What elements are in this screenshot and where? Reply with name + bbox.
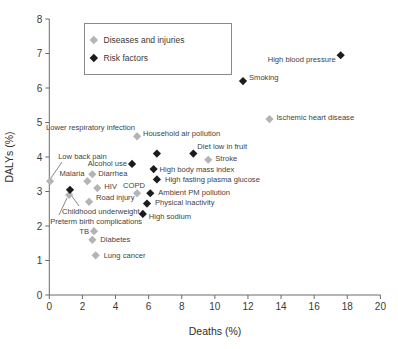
- data-point-label: High body mass index: [160, 165, 235, 174]
- legend-label-risks: Risk factors: [104, 53, 148, 63]
- data-point-label: Diet low in fruit: [197, 142, 248, 151]
- x-tick-label: 12: [242, 301, 254, 312]
- data-point-label: Malaria: [59, 169, 85, 178]
- data-point-marker: [88, 236, 96, 244]
- y-tick-label: 3: [37, 186, 43, 197]
- y-tick-label: 7: [37, 48, 43, 59]
- data-point-marker: [153, 175, 161, 183]
- x-tick-label: 10: [209, 301, 221, 312]
- data-point-label: Lower respiratory infection: [46, 123, 135, 132]
- data-point-marker: [149, 165, 157, 173]
- x-tick-label: 16: [309, 301, 321, 312]
- legend: Diseases and injuries Risk factors: [84, 23, 232, 75]
- scatter-plot-figure: 02468101214161820012345678 Lower respira…: [0, 0, 398, 349]
- data-point-label: TB: [79, 227, 89, 236]
- data-point-marker: [83, 177, 91, 185]
- data-point-label: COPD: [123, 181, 145, 190]
- data-point-label: Lung cancer: [104, 251, 146, 260]
- x-tick-label: 14: [276, 301, 288, 312]
- x-axis-title: Deaths (%): [189, 325, 242, 337]
- y-tick-label: 6: [37, 83, 43, 94]
- data-point-marker: [146, 189, 154, 197]
- data-point-marker: [337, 51, 345, 59]
- data-point-marker: [204, 156, 212, 164]
- y-tick-label: 0: [37, 290, 43, 301]
- y-axis-title: DALYs (%): [3, 131, 15, 182]
- data-point-label: Ischemic heart disease: [276, 113, 354, 122]
- y-tick-label: 8: [37, 14, 43, 25]
- y-tick-label: 4: [37, 152, 43, 163]
- y-tick-label: 2: [37, 221, 43, 232]
- data-point-marker: [153, 149, 161, 157]
- y-tick-label: 5: [37, 117, 43, 128]
- data-point-marker: [66, 186, 74, 194]
- data-point-label: Diarrhea: [98, 169, 128, 178]
- data-point-label: Stroke: [215, 154, 237, 163]
- data-point-marker: [128, 160, 136, 168]
- x-tick-label: 8: [179, 301, 185, 312]
- data-point-marker: [189, 149, 197, 157]
- data-point-label: High sodium: [149, 212, 191, 221]
- disease-diamond-icon: [90, 36, 98, 44]
- data-point-label: Physical inactivity: [155, 198, 215, 207]
- risk-diamond-icon: [90, 54, 98, 62]
- data-point-marker: [85, 198, 93, 206]
- data-point-marker: [92, 251, 100, 259]
- data-point-marker: [143, 199, 151, 207]
- data-point-marker: [90, 227, 98, 235]
- legend-item-risks: Risk factors: [85, 54, 231, 63]
- x-tick-label: 20: [375, 301, 387, 312]
- data-point-label: Alcohol use: [88, 159, 127, 168]
- data-point-label: Road injury: [96, 193, 135, 202]
- legend-item-diseases: Diseases and injuries: [85, 36, 231, 45]
- data-point-label: HIV: [104, 182, 118, 191]
- data-point-marker: [88, 170, 96, 178]
- data-point-label: High fasting plasma glucose: [165, 175, 260, 184]
- data-point-label: Diabetes: [100, 235, 130, 244]
- data-point-marker: [265, 115, 273, 123]
- data-point-label: High blood pressure: [268, 55, 336, 64]
- x-tick-label: 2: [80, 301, 86, 312]
- data-point-marker: [93, 184, 101, 192]
- x-tick-label: 18: [342, 301, 354, 312]
- data-point-label: Ambient PM pollution: [158, 188, 230, 197]
- leader-line: [71, 195, 79, 206]
- y-tick-label: 1: [37, 255, 43, 266]
- x-tick-label: 6: [146, 301, 152, 312]
- data-point-marker: [239, 77, 247, 85]
- data-point-label: Childhood underweight: [62, 207, 141, 216]
- x-tick-label: 4: [113, 301, 119, 312]
- data-point-marker: [133, 132, 141, 140]
- data-point-marker: [46, 177, 54, 185]
- legend-label-diseases: Diseases and injuries: [104, 35, 185, 45]
- data-point-label: Smoking: [249, 73, 279, 82]
- data-point-label: Household air pollution: [143, 129, 220, 138]
- x-tick-label: 0: [47, 301, 53, 312]
- data-point-label: Preterm birth complications: [50, 217, 142, 226]
